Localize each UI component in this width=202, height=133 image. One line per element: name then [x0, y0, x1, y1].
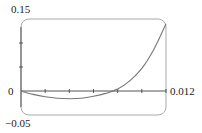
- axes: [19, 27, 166, 107]
- y-tick-label-zero: 0: [8, 86, 14, 97]
- x-tick-label-right: 0.012: [170, 86, 195, 97]
- data-curve: [21, 24, 166, 99]
- chart-canvas: [0, 0, 202, 133]
- y-tick-label-top: 0.15: [11, 4, 30, 15]
- y-tick-label-bottom: −0.05: [5, 118, 30, 129]
- plot-frame: [21, 19, 166, 115]
